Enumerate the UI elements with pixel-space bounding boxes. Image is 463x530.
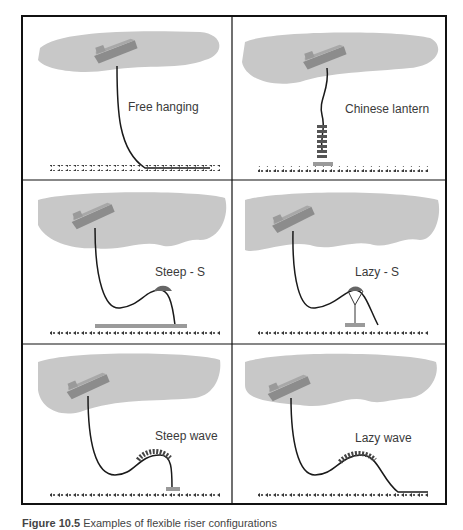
label-free-hanging: Free hanging <box>128 100 199 114</box>
anchor-base <box>166 487 180 491</box>
anchor-base <box>95 324 187 328</box>
anchor-base <box>345 323 365 327</box>
seabed <box>50 491 220 497</box>
seabed <box>258 491 428 497</box>
caption-text: Examples of flexible riser configuration… <box>83 517 277 529</box>
label-chinese-lantern: Chinese lantern <box>345 102 429 116</box>
label-lazy-wave: Lazy wave <box>355 431 412 445</box>
label-lazy-s: Lazy - S <box>355 265 399 279</box>
seabed <box>50 329 220 335</box>
label-steep-s: Steep - S <box>155 265 205 279</box>
caption-number: Figure 10.5 <box>22 517 80 529</box>
anchor-base <box>313 162 333 166</box>
label-steep-wave: Steep wave <box>155 429 218 443</box>
seabed <box>50 165 220 171</box>
figure-caption: Figure 10.5 Examples of flexible riser c… <box>22 517 277 529</box>
seabed <box>258 166 428 172</box>
seabed <box>258 329 428 335</box>
